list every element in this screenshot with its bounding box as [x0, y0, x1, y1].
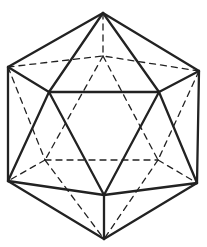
visible-edge-LR-BF: [104, 183, 197, 195]
visible-edge-LL-B: [8, 181, 104, 239]
visible-edge-T-L: [8, 13, 103, 67]
hidden-edge-R-HR: [158, 71, 199, 160]
hidden-edge-BK-HL: [45, 56, 103, 160]
visible-edge-IR-LR: [159, 92, 197, 183]
visible-edge-IL-LL: [8, 92, 49, 181]
visible-edge-T-IR: [103, 13, 159, 92]
visible-edge-LR-B: [104, 183, 197, 239]
visible-edge-LL-BF: [8, 181, 104, 195]
visible-edge-T-R: [103, 13, 199, 71]
hidden-edge-HL-B: [45, 160, 104, 239]
icosahedron-svg: [0, 0, 207, 247]
icosahedron-diagram: [0, 0, 207, 247]
visible-edge-R-LR: [197, 71, 199, 183]
visible-edge-L-IL: [8, 67, 49, 92]
hidden-edge-HR-B: [104, 160, 158, 239]
visible-edge-T-IL: [49, 13, 103, 92]
visible-edge-R-IR: [159, 71, 199, 92]
visible-edge-IL-BF: [49, 92, 104, 195]
visible-edge-IR-BF: [104, 92, 159, 195]
